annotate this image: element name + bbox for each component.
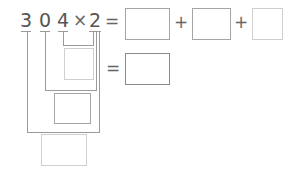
- connector-tens-left: [45, 31, 46, 91]
- sum-box-2[interactable]: [192, 8, 231, 40]
- sum-box-1[interactable]: [125, 8, 170, 40]
- plus-sign-1: +: [174, 12, 188, 32]
- partial-ones-result-box[interactable]: [125, 53, 170, 85]
- connector-tens-right: [96, 31, 97, 91]
- plus-sign-2: +: [234, 12, 248, 32]
- connector-hundreds-right: [99, 31, 100, 133]
- digit-ones: 4: [56, 10, 70, 30]
- underline-hundreds: [21, 31, 31, 32]
- equals-sign: =: [105, 11, 119, 31]
- equals-sign-2: =: [106, 58, 120, 78]
- sum-box-3[interactable]: [252, 8, 283, 40]
- partial-ones-box[interactable]: [64, 48, 94, 80]
- multiplier-digit: 2: [88, 10, 102, 30]
- partial-hundreds-box[interactable]: [41, 134, 87, 166]
- connector-hundreds-bottom: [27, 132, 99, 133]
- partial-tens-box[interactable]: [54, 93, 91, 124]
- digit-tens: 0: [38, 10, 52, 30]
- connector-ones-left: [63, 31, 64, 46]
- digit-hundreds: 3: [19, 10, 33, 30]
- connector-tens-bottom: [45, 90, 96, 91]
- connector-hundreds-left: [27, 31, 28, 133]
- connector-ones-right: [93, 31, 94, 46]
- connector-ones-bottom: [63, 45, 93, 46]
- times-sign: ×: [73, 10, 87, 30]
